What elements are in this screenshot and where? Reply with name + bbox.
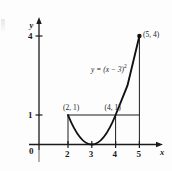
point-label-2-1: (2, 1) [63, 104, 79, 112]
parabola-curve [68, 36, 139, 145]
point-marker-5-4 [137, 34, 141, 38]
y-tick-label-4: 4 [28, 32, 33, 41]
equation-text: y = (x − 3) [91, 65, 124, 74]
x-tick-label-4: 4 [113, 150, 118, 159]
point-label-4-1: (4, 1) [105, 104, 121, 112]
y-axis-label: y [30, 21, 34, 30]
x-axis-label: x [160, 148, 164, 157]
x-tick-label-5: 5 [136, 150, 141, 159]
origin-label: 0 [29, 147, 34, 156]
equation-label: y = (x − 3)2 [91, 64, 127, 73]
figure-container: y x 0 1 4 2 3 4 5 (2, 1) (4, 1) (5, 4) y… [0, 0, 172, 171]
parabola-plot [0, 0, 172, 171]
y-axis-arrowhead [36, 17, 41, 24]
y-tick-label-1: 1 [28, 111, 33, 120]
x-tick-label-3: 3 [89, 150, 94, 159]
point-label-5-4: (5, 4) [143, 31, 159, 39]
x-tick-label-2: 2 [65, 150, 70, 159]
equation-exponent: 2 [124, 63, 127, 69]
